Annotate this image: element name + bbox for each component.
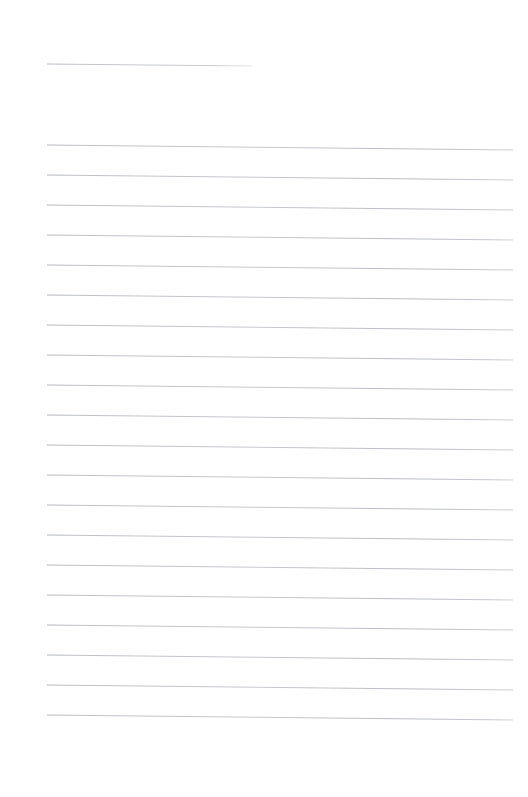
writing-line-14[interactable] bbox=[47, 509, 513, 537]
writing-line-15[interactable] bbox=[47, 539, 513, 567]
writing-line-9[interactable] bbox=[47, 359, 513, 387]
header-rule bbox=[47, 64, 252, 66]
writing-line-8[interactable] bbox=[47, 329, 513, 357]
writing-line-6[interactable] bbox=[47, 269, 513, 297]
header-writing-line[interactable] bbox=[47, 42, 252, 64]
writing-line-18[interactable] bbox=[47, 629, 513, 657]
writing-line-7[interactable] bbox=[47, 299, 513, 327]
scanned-page: Blank Ruled Page bbox=[0, 0, 528, 797]
writing-line-12[interactable] bbox=[47, 449, 513, 477]
writing-line-13[interactable] bbox=[47, 479, 513, 507]
writing-line-3[interactable] bbox=[47, 179, 513, 207]
writing-line-19[interactable] bbox=[47, 659, 513, 687]
writing-line-16[interactable] bbox=[47, 569, 513, 597]
writing-line-20[interactable] bbox=[47, 689, 513, 717]
writing-line-5[interactable] bbox=[47, 239, 513, 267]
writing-line-17[interactable] bbox=[47, 599, 513, 627]
writing-line-1[interactable] bbox=[47, 119, 513, 147]
writing-line-11[interactable] bbox=[47, 419, 513, 447]
writing-line-4[interactable] bbox=[47, 209, 513, 237]
writing-line-2[interactable] bbox=[47, 149, 513, 177]
writing-line-10[interactable] bbox=[47, 389, 513, 417]
